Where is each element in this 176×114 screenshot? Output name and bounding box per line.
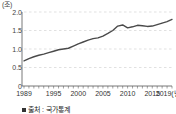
x-axis-tick-labels: 1989199520002005201020152019(년): [0, 88, 176, 100]
y-tick-label: 1.5: [1, 27, 22, 34]
source-note: 출처 : 국가통계: [22, 105, 172, 114]
data-series-line: [24, 19, 172, 60]
gridlines: [24, 12, 172, 68]
x-tick-label: 2019(년): [156, 90, 176, 98]
y-tick-label: 2.0: [1, 9, 22, 16]
x-tick-label: 2000: [70, 90, 86, 98]
x-tick-label: 2005: [95, 90, 111, 98]
chart-figure: (조) 2.01.51.00.50 1989199520002005201020…: [0, 0, 176, 114]
line-chart-svg: [24, 12, 172, 86]
plot-area: [24, 12, 172, 86]
source-text: 출처 : 국가통계: [28, 106, 70, 113]
bullet-icon: [22, 108, 26, 112]
y-tick-label: 0.5: [1, 64, 22, 71]
y-tick-label: 1.0: [1, 46, 22, 53]
x-tick-label: 2010: [120, 90, 136, 98]
x-tick-label: 1989: [16, 90, 32, 98]
x-tick-label: 1995: [46, 90, 62, 98]
